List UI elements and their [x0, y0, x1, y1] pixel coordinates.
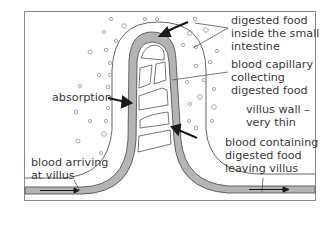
villus-diagram: digested food inside the small intestine…: [0, 0, 334, 229]
label-absorption: absorption: [52, 91, 112, 104]
